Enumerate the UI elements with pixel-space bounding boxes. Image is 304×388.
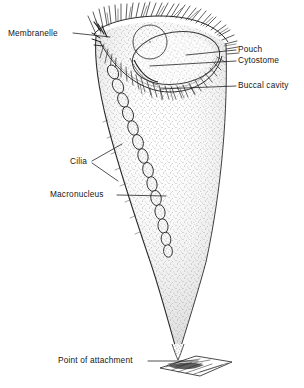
label-cilia: Cilia: [70, 157, 87, 166]
point-of-attachment: [160, 344, 232, 376]
label-buccal-cavity: Buccal cavity: [238, 81, 289, 90]
label-membranelle: Membranelle: [8, 29, 58, 38]
label-point-of-attachment: Point of attachment: [58, 356, 133, 365]
label-macronucleus: Macronucleus: [50, 190, 104, 199]
leader-cilia-b: [92, 163, 118, 181]
label-cytostome: Cytostome: [238, 56, 279, 65]
label-pouch: Pouch: [238, 45, 262, 54]
diagram-figure: Membranelle Pouch Cytostome Buccal cavit…: [0, 0, 304, 388]
